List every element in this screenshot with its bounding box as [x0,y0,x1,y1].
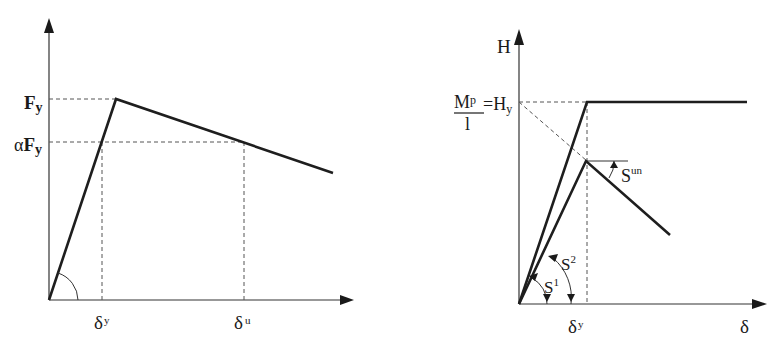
right-x-axis-arrow-icon [752,299,767,309]
left-y-axis-arrow-icon [44,18,54,33]
s1-label: S1 [544,276,559,297]
left-diagram: Fy αFy δy δu [14,18,354,333]
s2-label: S2 [561,253,576,274]
fy-label: Fy [24,92,43,115]
l-denominator-label: l [465,114,470,134]
sun-arc-arrow-icon [610,161,618,168]
hy-label: =Hy [483,94,512,116]
diagram-canvas: Fy αFy δy δu H Mp l =Hy S1 [0,0,782,349]
delta-y-label-right: δy [568,316,584,337]
mp-numerator-label: Mp [454,92,476,112]
initial-stiffness-angle-arc [58,273,78,300]
delta-y-label: δy [94,312,110,333]
right-y-axis-arrow-icon [514,29,524,45]
s2-arc-arrow-icon-bottom [567,294,575,302]
right-diagram: H Mp l =Hy S1 S2 Sun δy δ [454,29,767,337]
delta-u-label: δu [234,312,251,333]
left-force-displacement-curve [49,99,333,300]
delta-axis-label: δ [740,316,749,337]
sun-label: Sun [621,164,643,186]
left-x-axis-arrow-icon [340,295,354,305]
h-axis-label: H [497,36,511,57]
alpha-fy-label: αFy [14,134,42,157]
degraded-unloading-curve [519,161,670,304]
